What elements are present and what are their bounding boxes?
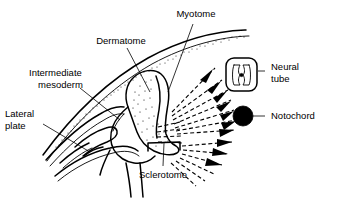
leader-sclerotome <box>163 143 164 166</box>
leader-lateral-plate <box>43 124 90 152</box>
label-intermediate-mesoderm-line2: mesoderm <box>38 79 83 90</box>
leader-dermatome <box>127 48 150 92</box>
notochord-dot <box>233 106 253 126</box>
somite-stipple <box>132 79 168 146</box>
label-intermediate-mesoderm-line1: Intermediate <box>29 67 82 78</box>
label-neural-tube-line1: Neural <box>271 61 299 72</box>
somite-diagram-figure: Myotome Dermatome Intermediate mesoderm … <box>0 0 341 201</box>
label-lateral-plate-line1: Lateral <box>5 108 34 119</box>
label-neural-tube-line2: tube <box>271 73 290 84</box>
label-myotome: Myotome <box>176 8 215 19</box>
label-lateral-plate-line2: plate <box>5 120 26 131</box>
label-dermatome: Dermatome <box>96 35 146 46</box>
label-notochord: Notochord <box>271 110 315 121</box>
neural-tube-icon <box>226 58 257 91</box>
leader-myotome <box>168 24 193 92</box>
label-sclerotome: Sclerotome <box>139 169 187 180</box>
leader-lines <box>43 24 265 166</box>
